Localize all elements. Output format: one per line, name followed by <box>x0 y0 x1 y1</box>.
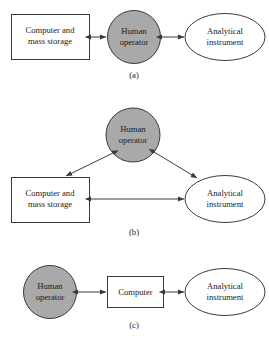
diagram-canvas <box>0 0 269 342</box>
node-analytical-instrument-b <box>185 176 265 223</box>
caption-panel-b: (b) <box>114 227 154 237</box>
node-human-operator-c <box>24 266 77 319</box>
caption-panel-c: (c) <box>114 320 154 330</box>
panel-a <box>12 11 266 64</box>
panel-c <box>24 266 266 319</box>
connector-operator-to-instrument-b <box>154 152 197 178</box>
panel-b <box>12 108 266 223</box>
node-computer-and-mass-storage-b <box>12 178 90 223</box>
connector-operator-to-computer-b <box>66 153 113 176</box>
node-computer-and-mass-storage-a <box>12 15 90 60</box>
node-human-operator-b <box>106 108 160 162</box>
node-human-operator-a <box>108 11 161 64</box>
node-analytical-instrument-a <box>185 14 265 61</box>
node-analytical-instrument-c <box>185 269 265 316</box>
node-computer-c <box>108 277 164 308</box>
caption-panel-a: (a) <box>114 70 154 80</box>
figure-container: Computer and mass storage Human operator… <box>0 0 269 342</box>
